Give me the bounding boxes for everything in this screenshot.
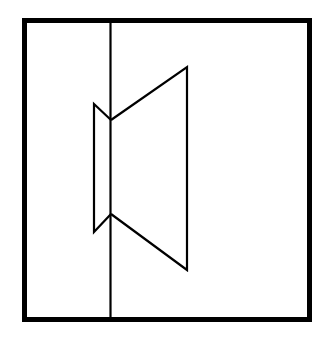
- outer-frame: [25, 21, 310, 320]
- large-trapezoid-right: [111, 67, 187, 270]
- diagram-canvas: [0, 0, 324, 342]
- small-trapezoid-left: [94, 104, 111, 232]
